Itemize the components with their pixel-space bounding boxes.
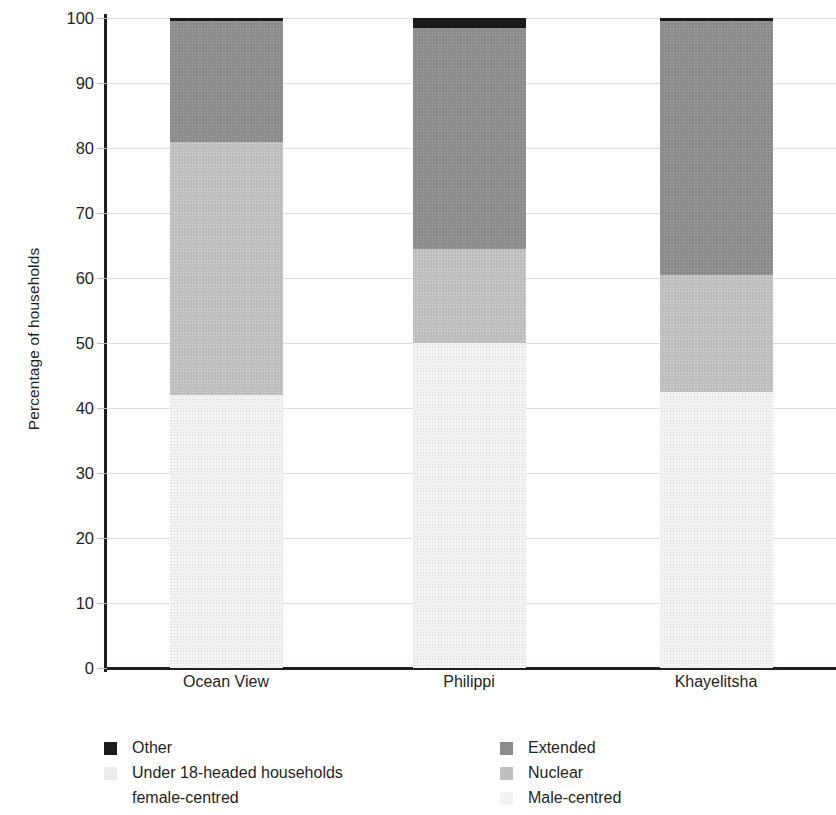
- legend-item[interactable]: Nuclear: [500, 760, 800, 785]
- bar-philippi[interactable]: [413, 18, 526, 668]
- y-axis-tick-mark: [97, 408, 107, 409]
- bar-segment-other[interactable]: [413, 18, 526, 28]
- legend-swatch-icon: [500, 792, 513, 805]
- legend-swatch-icon: [500, 742, 513, 755]
- x-axis-label-philippi: Philippi: [359, 673, 579, 691]
- bar-ocean-view[interactable]: [170, 18, 283, 668]
- legend-swatch-icon: [104, 767, 117, 780]
- plot-area: 0102030405060708090100: [104, 18, 836, 668]
- legend-label: Extended: [528, 739, 596, 756]
- x-axis-label-ocean-view: Ocean View: [116, 673, 336, 691]
- y-axis-tick-label: 100: [24, 10, 94, 27]
- legend-label: Under 18-headed households: [132, 764, 343, 781]
- y-axis-tick-mark: [97, 668, 107, 669]
- x-axis-label-khayelitsha: Khayelitsha: [606, 673, 826, 691]
- bar-segment-male-centred[interactable]: [170, 395, 283, 668]
- y-axis-tick-label: 50: [24, 335, 94, 352]
- legend-label: female-centred: [132, 789, 239, 806]
- y-axis-tick-label: 70: [24, 205, 94, 222]
- y-axis-tick-label: 90: [24, 75, 94, 92]
- legend-item[interactable]: Extended: [500, 735, 800, 760]
- y-axis-tick-mark: [97, 18, 107, 19]
- bar-khayelitsha[interactable]: [660, 18, 773, 668]
- bar-segment-extended[interactable]: [413, 28, 526, 249]
- y-axis-tick-mark: [97, 83, 107, 84]
- legend-column-right: ExtendedNuclearMale-centred: [500, 735, 800, 810]
- bar-segment-nuclear[interactable]: [660, 275, 773, 392]
- legend-swatch-icon: [104, 742, 117, 755]
- legend-swatch-icon: [500, 767, 513, 780]
- y-axis-tick-label: 20: [24, 530, 94, 547]
- y-axis-tick-mark: [97, 213, 107, 214]
- legend-item[interactable]: female-centred: [104, 785, 484, 810]
- bar-segment-other[interactable]: [660, 18, 773, 21]
- y-axis-tick-label: 30: [24, 465, 94, 482]
- bar-segment-nuclear[interactable]: [413, 249, 526, 343]
- y-axis-tick-mark: [97, 473, 107, 474]
- bar-segment-extended[interactable]: [660, 21, 773, 275]
- stacked-bar-chart: Percentage of households 010203040506070…: [0, 0, 836, 815]
- legend-item[interactable]: Other: [104, 735, 484, 760]
- y-axis-tick-mark: [97, 603, 107, 604]
- y-axis-tick-mark: [97, 538, 107, 539]
- bar-segment-male-centred[interactable]: [660, 392, 773, 668]
- y-axis-tick-label: 40: [24, 400, 94, 417]
- y-axis-tick-label: 80: [24, 140, 94, 157]
- y-axis-tick-label: 10: [24, 595, 94, 612]
- legend-column-left: OtherUnder 18-headed householdsfemale-ce…: [104, 735, 484, 810]
- legend-item[interactable]: Male-centred: [500, 785, 800, 810]
- y-axis-tick-mark: [97, 343, 107, 344]
- y-axis-tick-mark: [97, 148, 107, 149]
- legend-label: Other: [132, 739, 172, 756]
- legend-label: Nuclear: [528, 764, 583, 781]
- legend-label: Male-centred: [528, 789, 621, 806]
- bar-segment-male-centred[interactable]: [413, 343, 526, 668]
- y-axis-tick-label: 60: [24, 270, 94, 287]
- legend-item[interactable]: Under 18-headed households: [104, 760, 484, 785]
- bar-segment-extended[interactable]: [170, 21, 283, 141]
- bar-segment-nuclear[interactable]: [170, 142, 283, 396]
- y-axis-tick-mark: [97, 278, 107, 279]
- y-axis-tick-label: 0: [24, 660, 94, 677]
- bar-segment-other[interactable]: [170, 18, 283, 21]
